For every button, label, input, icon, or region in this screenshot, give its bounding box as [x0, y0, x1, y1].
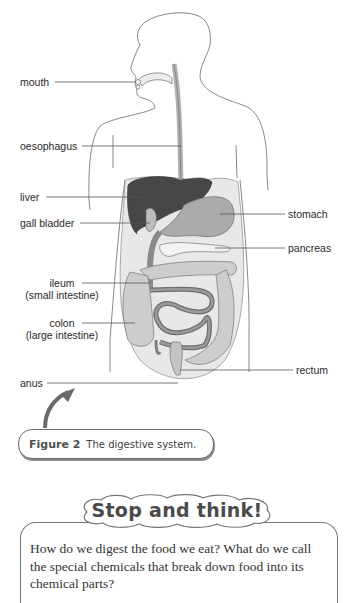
arrow-head-icon [60, 388, 75, 402]
digestive-system-diagram [0, 0, 354, 480]
figure-number: Figure 2 [29, 438, 80, 451]
label-rectum: rectum [296, 364, 328, 376]
label-mouth: mouth [20, 76, 49, 88]
label-oesophagus: oesophagus [20, 140, 77, 152]
label-gall-bladder: gall bladder [20, 217, 74, 229]
figure-caption-text: The digestive system. [86, 439, 196, 450]
stop-and-think-body: How do we digest the food we eat? What d… [30, 540, 330, 593]
label-liver: liver [20, 191, 39, 203]
label-anus: anus [20, 377, 43, 389]
figure-caption: Figure 2 The digestive system. [18, 429, 214, 459]
label-ileum-sub: (small intestine) [22, 289, 102, 301]
stop-and-think-title: Stop and think! [0, 499, 354, 521]
label-ileum: ileum [22, 277, 102, 289]
label-colon: colon [22, 317, 102, 329]
label-pancreas: pancreas [288, 242, 331, 254]
label-colon-sub: (large intestine) [22, 329, 102, 341]
mouth-shape [136, 73, 173, 89]
label-stomach: stomach [288, 208, 328, 220]
